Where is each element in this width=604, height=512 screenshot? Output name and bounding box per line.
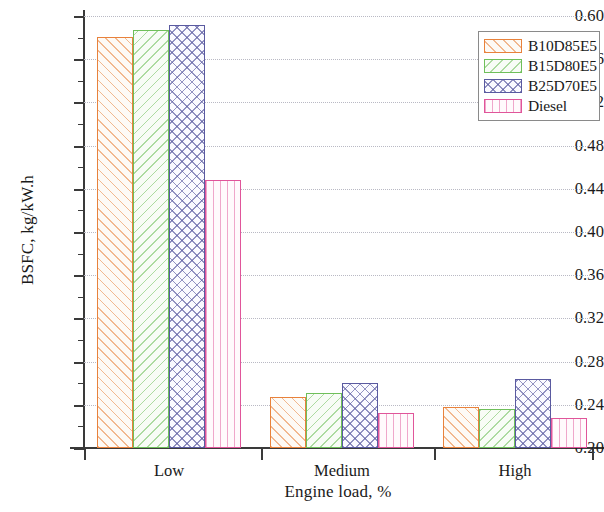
- bar-B15D80E5-Low: [133, 30, 169, 448]
- bar-B15D80E5-High: [479, 409, 515, 448]
- y-tick-mark: [74, 189, 84, 191]
- y-tick-mark: [74, 405, 84, 407]
- legend-swatch-icon: [484, 99, 522, 113]
- y-tick-mark: [74, 232, 84, 234]
- y-tick-mark: [74, 59, 84, 61]
- bar-B25D70E5-Low: [169, 25, 205, 448]
- bar-Diesel-High: [551, 418, 587, 448]
- y-tick-mark: [74, 318, 84, 320]
- bar-B10D85E5-Low: [97, 37, 133, 448]
- bar-B25D70E5-High: [515, 379, 551, 448]
- x-tick-mark: [592, 449, 594, 460]
- bar-B15D80E5-Medium: [306, 393, 342, 448]
- bsfc-bar-chart: BSFC, kg/kW.h Engine load, % 0.200.240.2…: [0, 0, 604, 512]
- y-tick-mark: [74, 448, 84, 450]
- y-tick-mark: [74, 275, 84, 277]
- legend-swatch-icon: [484, 79, 522, 93]
- legend-label: B10D85E5: [528, 37, 597, 55]
- x-axis-title: Engine load, %: [84, 482, 592, 502]
- x-tick-mark: [84, 449, 86, 460]
- x-tick-label-high: High: [455, 461, 575, 481]
- legend: B10D85E5B15D80E5B25D70E5Diesel: [478, 31, 600, 121]
- bar-Diesel-Medium: [378, 413, 414, 448]
- legend-item-B25D70E5[interactable]: B25D70E5: [484, 76, 595, 96]
- bar-B10D85E5-High: [443, 407, 479, 448]
- bar-Diesel-Low: [205, 180, 241, 448]
- legend-swatch-icon: [484, 39, 522, 53]
- legend-swatch-icon: [484, 59, 522, 73]
- x-tick-label-low: Low: [109, 461, 229, 481]
- bar-B25D70E5-Medium: [342, 383, 378, 448]
- x-tick-mark: [261, 449, 263, 460]
- bar-B10D85E5-Medium: [270, 397, 306, 448]
- y-axis-title: BSFC, kg/kW.h: [18, 110, 38, 350]
- legend-label: B15D80E5: [528, 57, 597, 75]
- legend-item-B15D80E5[interactable]: B15D80E5: [484, 56, 595, 76]
- x-tick-label-medium: Medium: [282, 461, 402, 481]
- y-tick-mark: [74, 146, 84, 148]
- y-tick-mark: [74, 362, 84, 364]
- legend-label: Diesel: [528, 97, 567, 115]
- x-tick-mark: [434, 449, 436, 460]
- legend-item-Diesel[interactable]: Diesel: [484, 96, 595, 116]
- y-tick-mark: [74, 102, 84, 104]
- legend-item-B10D85E5[interactable]: B10D85E5: [484, 36, 595, 56]
- legend-label: B25D70E5: [528, 77, 597, 95]
- y-tick-mark: [74, 16, 84, 18]
- gridline: [84, 16, 592, 17]
